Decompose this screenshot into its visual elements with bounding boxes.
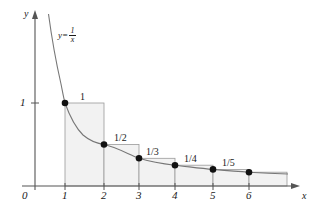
x-tick-label-3: 3: [136, 190, 142, 201]
x-axis-label: x: [302, 191, 306, 201]
y-axis-label: y: [24, 9, 28, 19]
data-point-5: [210, 166, 217, 173]
y-axis-arrow-icon: [32, 10, 38, 19]
data-point-2: [101, 141, 108, 148]
x-tick-label-5: 5: [210, 190, 216, 201]
rectangle-1: [65, 103, 104, 186]
y-tick-label-1: 1: [20, 97, 26, 108]
data-point-1: [62, 100, 69, 107]
data-point-4: [172, 162, 179, 169]
rectangle-label-4: 1/4: [184, 154, 197, 164]
plot-canvas: [0, 0, 314, 217]
rectangle-group: [65, 103, 287, 186]
rectangle-label-5: 1/5: [222, 158, 235, 168]
x-tick-label-4: 4: [172, 190, 178, 201]
rectangle-label-1: 1: [80, 92, 85, 102]
x-tick-label-1: 1: [62, 190, 68, 201]
rectangle-label-3: 1/3: [146, 147, 159, 157]
origin-label: 0: [22, 190, 28, 201]
x-axis-arrow-icon: [291, 183, 300, 189]
x-tick-label-2: 2: [101, 190, 107, 201]
curve-equation-denominator: x: [70, 36, 76, 44]
rectangle-label-2: 1/2: [114, 133, 127, 143]
curve-equation-label: y= 1 x: [58, 27, 76, 44]
curve-equation-lhs: y=: [58, 31, 68, 40]
data-point-6: [246, 169, 253, 176]
data-point-3: [136, 155, 143, 162]
harmonic-series-figure: y x 0 1 1 2 3 4 5 6 1 1/2 1/3 1/4 1/5 y=…: [0, 0, 314, 217]
x-tick-label-6: 6: [246, 190, 252, 201]
curve-equation-numerator: 1: [70, 27, 76, 35]
curve-equation-fraction: 1 x: [69, 27, 76, 44]
